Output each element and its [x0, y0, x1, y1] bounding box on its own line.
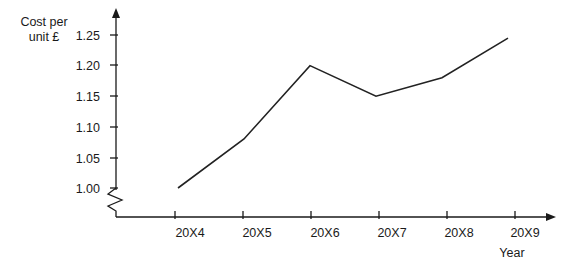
x-axis-label-20x5: 20X5 — [242, 226, 271, 240]
data-series-line — [178, 38, 508, 188]
chart-canvas: 1.25 1.20 1.15 1.10 1.05 1.00 Cost per u… — [0, 0, 562, 260]
line-chart: 1.25 1.20 1.15 1.10 1.05 1.00 Cost per u… — [0, 0, 562, 260]
y-tick-label-1-00: 1.00 — [76, 182, 100, 196]
y-axis-title-line1: Cost per — [20, 15, 67, 29]
y-tick-label-1-05: 1.05 — [76, 152, 100, 166]
x-axis-label-20x7: 20X7 — [377, 226, 406, 240]
x-axis-arrow-icon — [546, 213, 556, 221]
y-axis-arrow-icon — [112, 8, 120, 18]
y-tick-label-1-10: 1.10 — [76, 121, 100, 135]
x-axis-label-20x9: 20X9 — [510, 226, 539, 240]
y-tick-label-1-20: 1.20 — [76, 59, 100, 73]
y-axis-title-line2: unit £ — [29, 30, 60, 44]
y-tick-label-1-25: 1.25 — [76, 29, 100, 43]
x-axis-label-20x8: 20X8 — [444, 226, 473, 240]
y-tick-label-1-15: 1.15 — [76, 90, 100, 104]
x-axis-title: Year — [499, 246, 524, 260]
x-axis-label-20x6: 20X6 — [310, 226, 339, 240]
y-axis-break-icon — [108, 188, 122, 217]
x-axis-label-20x4: 20X4 — [175, 226, 204, 240]
